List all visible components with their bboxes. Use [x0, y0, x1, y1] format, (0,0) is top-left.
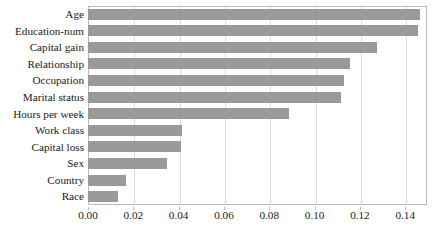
bar-occupation	[88, 75, 344, 86]
category-label-country: Country	[0, 172, 84, 188]
category-label-capital-loss: Capital loss	[0, 139, 84, 155]
bar-hours-per-week	[88, 108, 289, 119]
category-label-race: Race	[0, 188, 84, 204]
bar-country	[88, 175, 126, 186]
value-tick-label-0.06: 0.06	[214, 207, 234, 223]
bars-layer	[88, 6, 427, 205]
bar-work-class	[88, 125, 182, 136]
bar-row	[88, 139, 427, 155]
category-label-relationship: Relationship	[0, 56, 84, 72]
value-tick-label-0.02: 0.02	[124, 207, 144, 223]
value-axis-labels: 0.000.020.040.060.080.100.120.14	[88, 207, 427, 225]
value-tick-label-0.12: 0.12	[350, 207, 370, 223]
value-tick-label-0.04: 0.04	[169, 207, 189, 223]
category-label-hours-per-week: Hours per week	[0, 106, 84, 122]
category-axis-labels: AgeEducation-numCapital gainRelationship…	[0, 6, 84, 205]
bar-row	[88, 172, 427, 188]
bar-row	[88, 188, 427, 204]
bar-chart: AgeEducation-numCapital gainRelationship…	[0, 0, 445, 243]
value-tick-label-0.14: 0.14	[395, 207, 415, 223]
category-label-occupation: Occupation	[0, 72, 84, 88]
category-label-age: Age	[0, 6, 84, 22]
category-label-marital-status: Marital status	[0, 89, 84, 105]
bar-race	[88, 191, 118, 202]
bar-age	[88, 9, 420, 20]
bar-row	[88, 89, 427, 105]
category-label-education-num: Education-num	[0, 23, 84, 39]
bar-row	[88, 56, 427, 72]
bar-row	[88, 6, 427, 22]
value-tick-label-0.00: 0.00	[78, 207, 98, 223]
bar-row	[88, 23, 427, 39]
bar-capital-loss	[88, 141, 181, 152]
bar-row	[88, 72, 427, 88]
bar-row	[88, 39, 427, 55]
bar-relationship	[88, 58, 350, 69]
category-label-sex: Sex	[0, 155, 84, 171]
category-label-work-class: Work class	[0, 122, 84, 138]
category-label-capital-gain: Capital gain	[0, 39, 84, 55]
value-tick-label-0.08: 0.08	[259, 207, 279, 223]
bar-row	[88, 106, 427, 122]
bar-sex	[88, 158, 167, 169]
value-tick-label-0.10: 0.10	[305, 207, 325, 223]
bar-row	[88, 155, 427, 171]
bar-capital-gain	[88, 42, 377, 53]
bar-row	[88, 122, 427, 138]
bar-marital-status	[88, 92, 341, 103]
bar-education-num	[88, 25, 418, 36]
